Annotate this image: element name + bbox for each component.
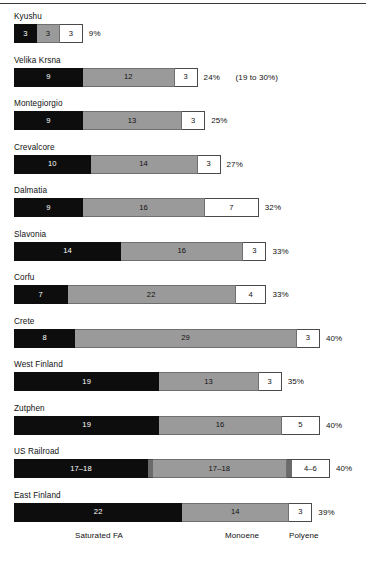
top-divider-rule <box>0 3 366 4</box>
row-total-percent: 33% <box>272 242 288 261</box>
bar-segment-polyene: 3 <box>60 24 83 43</box>
bar-segment-saturated-fa: 22 <box>14 503 182 522</box>
bar-segment-monoene: 22 <box>68 285 236 304</box>
stacked-bar: 17–1817–184–6 <box>14 459 330 478</box>
bar-segment-monoene: 17–18 <box>153 459 287 478</box>
chart-row: Dalmatia916732% <box>0 186 366 230</box>
row-total-percent: 9% <box>89 24 101 43</box>
bar-segment-monoene: 13 <box>159 372 258 391</box>
legend-item-saturated-fa: Saturated FA <box>75 531 123 540</box>
row-label: East Finland <box>14 491 61 501</box>
row-label: Velika Krsna <box>14 56 61 66</box>
bar-segment-polyene: 3 <box>289 503 312 522</box>
chart-row: Slavonia1416333% <box>0 230 366 274</box>
row-total-percent: 33% <box>272 285 288 304</box>
row-label: Dalmatia <box>14 186 47 196</box>
bar-segment-saturated-fa: 9 <box>14 111 83 130</box>
bar-segment-saturated-fa: 8 <box>14 329 75 348</box>
bar-segment-saturated-fa: 14 <box>14 242 121 261</box>
row-total-percent: 35% <box>288 372 304 391</box>
chart-row: Velika Krsna912324%(19 to 30%) <box>0 56 366 100</box>
bar-segment-saturated-fa: 7 <box>14 285 68 304</box>
row-total-percent: 32% <box>265 198 281 217</box>
row-total-percent: 24% <box>204 68 220 87</box>
bar-segment-saturated-fa: 19 <box>14 416 159 435</box>
stacked-bar: 22143 <box>14 503 312 522</box>
bar-segment-saturated-fa: 10 <box>14 155 91 174</box>
stacked-bar: 9167 <box>14 198 259 217</box>
chart-row: Corfu722433% <box>0 273 366 317</box>
bar-segment-polyene: 4–6 <box>292 459 330 478</box>
row-total-percent: 40% <box>326 416 342 435</box>
bar-segment-saturated-fa: 9 <box>14 68 83 87</box>
row-label: Crevalcore <box>14 143 55 153</box>
row-total-percent: 40% <box>326 329 342 348</box>
bar-segment-polyene: 5 <box>282 416 320 435</box>
bar-segment-polyene: 7 <box>205 198 259 217</box>
chart-row: East Finland2214339% <box>0 491 366 535</box>
row-label: West Finland <box>14 360 63 370</box>
chart-row: Montegiorgio913325% <box>0 99 366 143</box>
row-total-percent: 40% <box>336 459 352 478</box>
bar-segment-monoene: 3 <box>37 24 60 43</box>
bar-segment-monoene: 13 <box>83 111 182 130</box>
row-label: Slavonia <box>14 230 46 240</box>
bar-segment-polyene: 3 <box>259 372 282 391</box>
stacked-bar: 19133 <box>14 372 282 391</box>
stacked-bar: 9123 <box>14 68 198 87</box>
row-label: Montegiorgio <box>14 99 63 109</box>
chart-row: Crete829340% <box>0 317 366 361</box>
bar-segment-saturated-fa: 19 <box>14 372 159 391</box>
bar-segment-saturated-fa: 3 <box>14 24 37 43</box>
bar-segment-monoene: 29 <box>75 329 297 348</box>
bar-segment-polyene: 3 <box>182 111 205 130</box>
bar-segment-polyene: 4 <box>236 285 267 304</box>
stacked-bar: 10143 <box>14 155 221 174</box>
stacked-bar: 14163 <box>14 242 266 261</box>
stacked-bar-chart: Kyushu3339%Velika Krsna912324%(19 to 30%… <box>0 0 366 561</box>
bar-segment-polyene: 3 <box>198 155 221 174</box>
chart-row: Kyushu3339% <box>0 12 366 56</box>
row-range-note: (19 to 30%) <box>236 68 278 87</box>
chart-rows: Kyushu3339%Velika Krsna912324%(19 to 30%… <box>0 12 366 534</box>
bar-segment-monoene: 14 <box>182 503 289 522</box>
chart-row: US Railroad17–1817–184–640% <box>0 447 366 491</box>
bar-segment-monoene: 14 <box>91 155 198 174</box>
row-label: US Railroad <box>14 447 59 457</box>
legend-item-polyene: Polyene <box>289 531 319 540</box>
bar-segment-saturated-fa: 9 <box>14 198 83 217</box>
row-label: Corfu <box>14 273 35 283</box>
bar-segment-saturated-fa: 17–18 <box>14 459 148 478</box>
legend-item-monoene: Monoene <box>225 531 259 540</box>
stacked-bar: 333 <box>14 24 83 43</box>
bar-segment-polyene: 3 <box>243 242 266 261</box>
bar-segment-monoene: 16 <box>121 242 243 261</box>
bar-segment-monoene: 12 <box>83 68 175 87</box>
row-label: Kyushu <box>14 12 42 22</box>
stacked-bar: 7224 <box>14 285 266 304</box>
stacked-bar: 9133 <box>14 111 205 130</box>
chart-row: West Finland1913335% <box>0 360 366 404</box>
chart-row: Zutphen1916540% <box>0 404 366 448</box>
bar-segment-monoene: 16 <box>159 416 281 435</box>
stacked-bar: 19165 <box>14 416 320 435</box>
row-label: Zutphen <box>14 404 45 414</box>
row-label: Crete <box>14 317 35 327</box>
bar-segment-polyene: 3 <box>175 68 198 87</box>
row-total-percent: 39% <box>318 503 334 522</box>
bar-segment-polyene: 3 <box>297 329 320 348</box>
chart-legend: Saturated FA Monoene Polyene <box>0 531 366 545</box>
row-total-percent: 25% <box>211 111 227 130</box>
row-total-percent: 27% <box>227 155 243 174</box>
bar-segment-monoene: 16 <box>83 198 205 217</box>
stacked-bar: 8293 <box>14 329 320 348</box>
chart-row: Crevalcore1014327% <box>0 143 366 187</box>
